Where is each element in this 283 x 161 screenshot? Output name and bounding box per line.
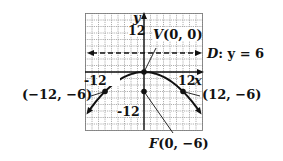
y-axis-arrow-icon <box>141 12 147 19</box>
directrix-right-arrow-icon <box>195 50 202 56</box>
y-tick-neg12: -12 <box>117 104 140 119</box>
directrix-label: D: y = 6 <box>206 46 264 61</box>
point-left-label: (−12, −6) <box>22 87 92 102</box>
point-right-label: (12, −6) <box>202 87 261 102</box>
vertex-leader <box>144 48 156 72</box>
x-tick-12: 12 <box>178 73 195 88</box>
x-tick-neg12: -12 <box>84 73 107 88</box>
parabola-diagram: y x 12 -12 -12 12 V(0, 0) D: y = 6 F(0, … <box>0 0 283 161</box>
directrix-left-arrow-icon <box>87 50 94 56</box>
focus-label: F(0, −6) <box>148 136 209 151</box>
y-tick-12: 12 <box>128 23 145 38</box>
vertex-label: V(0, 0) <box>153 27 203 42</box>
